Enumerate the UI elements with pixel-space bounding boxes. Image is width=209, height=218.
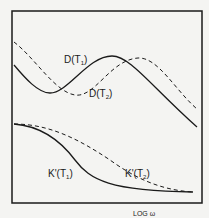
x-axis-label: LOG ω <box>133 210 156 217</box>
label-k-t1: K'(T1) <box>48 168 73 180</box>
label-k-t2: K'(T2) <box>125 168 150 180</box>
label-d-t1: D(T1) <box>64 54 87 66</box>
diagram: D(T1) D(T2) K'(T1) K'(T2) LOG ω <box>0 0 209 218</box>
label-d-t2: D(T2) <box>89 88 112 100</box>
plot-frame <box>12 11 202 203</box>
curve-k-t1 <box>14 124 193 192</box>
